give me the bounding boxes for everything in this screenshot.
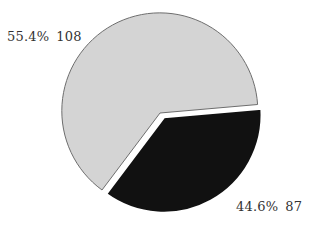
data-label-grey-slice: 55.4%108 (7, 29, 82, 44)
grey-value: 108 (56, 29, 81, 44)
data-label-black-slice: 44.6%87 (236, 199, 302, 214)
grey-percent: 55.4% (7, 29, 49, 44)
black-percent: 44.6% (236, 199, 278, 214)
black-value: 87 (285, 199, 302, 214)
